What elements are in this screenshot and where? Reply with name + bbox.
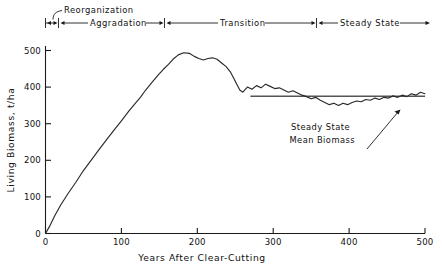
- y-axis-title: Living Biomass, t/ha: [5, 88, 16, 193]
- annotation-arrowhead: [395, 110, 401, 115]
- x-tick-label-0: 0: [43, 237, 49, 247]
- y-tick-label-400: 400: [24, 82, 41, 92]
- steady-state-annotation: Steady State Mean Biomass: [289, 110, 400, 150]
- x-tick-label-500: 500: [416, 237, 433, 247]
- bracket-transition: Transition: [167, 18, 317, 28]
- reorganization-leader-line: [53, 11, 62, 20]
- y-tick-label-200: 200: [24, 155, 41, 165]
- y-axis-tick-labels: 500 400 300 200 100 0: [24, 46, 41, 239]
- x-axis-title: Years After Clear-Cutting: [137, 252, 266, 263]
- x-tick-label-100: 100: [113, 237, 130, 247]
- x-tick-label-200: 200: [189, 237, 206, 247]
- phase-label-transition: Transition: [219, 18, 266, 28]
- biomass-line-chart: Reorganization Aggradation Transition: [0, 0, 442, 278]
- x-axis-tick-labels: 0 100 200 300 400 500: [43, 237, 434, 247]
- phase-label-reorganization: Reorganization: [64, 5, 134, 15]
- y-tick-label-100: 100: [24, 192, 41, 202]
- y-axis-ticks: [46, 51, 52, 234]
- annotation-line-1: Steady State: [291, 122, 350, 132]
- y-tick-label-0: 0: [35, 229, 41, 239]
- axis-lines: [46, 46, 426, 234]
- figure-container: Reorganization Aggradation Transition: [0, 0, 442, 278]
- living-biomass-curve: [46, 53, 426, 234]
- annotation-line-2: Mean Biomass: [289, 135, 355, 145]
- x-axis-ticks: [46, 228, 426, 234]
- bracket-steady-state: Steady State: [319, 18, 431, 28]
- phase-label-aggradation: Aggradation: [90, 18, 147, 28]
- phase-bracket-band: Reorganization Aggradation Transition: [46, 5, 431, 29]
- y-tick-label-500: 500: [24, 46, 41, 56]
- bracket-aggradation: Aggradation: [61, 18, 165, 28]
- phase-label-steady-state: Steady State: [340, 18, 400, 28]
- x-tick-label-300: 300: [265, 237, 282, 247]
- y-tick-label-300: 300: [24, 119, 41, 129]
- bracket-reorganization: [46, 18, 59, 28]
- annotation-leader-line: [367, 112, 398, 149]
- x-tick-label-400: 400: [341, 237, 358, 247]
